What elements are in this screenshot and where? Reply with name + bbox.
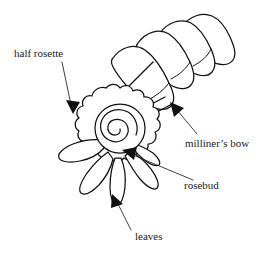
leaf-left bbox=[59, 140, 104, 162]
label-rosebud: rosebud bbox=[184, 179, 219, 191]
label-leaves: leaves bbox=[135, 230, 162, 242]
figure-canvas: half rosette milliner’s bow rosebud leav… bbox=[0, 0, 272, 253]
leader-line-milliners-bow bbox=[177, 110, 197, 134]
leader-line-half-rosette bbox=[62, 62, 71, 105]
label-half-rosette: half rosette bbox=[14, 47, 63, 59]
label-milliners-bow: milliner’s bow bbox=[185, 137, 249, 149]
ribbon-trim-diagram: half rosette milliner’s bow rosebud leav… bbox=[0, 0, 272, 253]
leader-line-leaves bbox=[117, 202, 131, 230]
rosebud-drawing bbox=[95, 104, 145, 153]
arrowhead-milliners-bow bbox=[170, 102, 184, 117]
